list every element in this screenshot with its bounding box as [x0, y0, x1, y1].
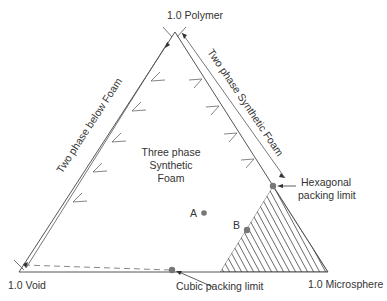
point-a-label: A — [190, 207, 197, 219]
region-label-line3: Foam — [158, 172, 185, 184]
point-a — [201, 210, 207, 216]
point-b — [244, 227, 250, 233]
vertex-label-left: 1.0 Void — [8, 279, 46, 291]
region-label-line1: Three phase — [142, 146, 201, 158]
vertex-label-right: 1.0 Microsphere — [308, 278, 383, 290]
ternary-phase-diagram: 1.0 Polymer 1.0 Void 1.0 Microsphere Two… — [0, 0, 387, 301]
hexagonal-label-line1: Hexagonal — [301, 176, 351, 188]
region-label-line2: Synthetic — [149, 159, 192, 171]
dashed-line — [24, 265, 170, 270]
hexagonal-point — [270, 183, 276, 189]
point-b-label: B — [233, 219, 240, 231]
hexagonal-arrow — [277, 184, 296, 188]
vertex-label-top: 1.0 Polymer — [167, 9, 224, 21]
edge-label-right: Two phase Synthetic Foam — [205, 46, 286, 158]
hexagonal-label-line2: packing limit — [298, 189, 356, 201]
edge-label-left: Two phase below Foam — [54, 75, 125, 175]
cubic-point — [169, 267, 175, 273]
cubic-label: Cubic packing limit — [176, 280, 264, 292]
